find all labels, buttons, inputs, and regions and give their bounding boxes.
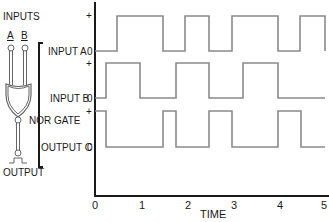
nor-timing-diagram: INPUTS A B NOR GATE OUTPUT INPUT A 0 + I… <box>0 0 329 222</box>
input-b-waveform <box>95 63 325 98</box>
inversion-bubble-icon <box>15 117 21 123</box>
input-a-terminal-icon <box>8 45 14 51</box>
x-tick-1: 1 <box>139 200 145 211</box>
nor-gate-label: NOR GATE <box>29 116 80 126</box>
x-tick-5: 5 <box>321 200 327 211</box>
input-a-letter: A <box>7 31 14 41</box>
output-wire <box>17 123 20 150</box>
input-b-plus-label: + <box>86 59 92 69</box>
x-tick-0: 0 <box>92 200 98 211</box>
x-tick-2: 2 <box>185 200 191 211</box>
output-c-waveform <box>95 111 325 147</box>
input-b-letter: B <box>21 31 28 41</box>
diagram-graphics <box>0 0 329 222</box>
input-a-signal-label: INPUT A <box>48 47 87 57</box>
output-label: OUTPUT <box>3 168 44 178</box>
output-c-zero-label: 0 <box>87 143 93 153</box>
input-wires <box>10 51 27 85</box>
output-terminal-icon <box>15 150 21 156</box>
input-a-zero-label: 0 <box>87 47 93 57</box>
input-a-waveform <box>95 16 325 51</box>
x-tick-4: 4 <box>277 200 283 211</box>
input-b-zero-label: 0 <box>87 94 93 104</box>
output-c-signal-label: OUTPUT C <box>41 143 92 153</box>
pulse-symbol-icon <box>9 158 27 163</box>
input-b-terminal-icon <box>22 45 28 51</box>
x-axis-title: TIME <box>200 209 226 220</box>
output-c-plus-label: + <box>86 107 92 117</box>
input-a-plus-label: + <box>86 11 92 21</box>
x-tick-3: 3 <box>231 200 237 211</box>
input-b-signal-label: INPUT B <box>50 94 89 104</box>
inputs-label: INPUTS <box>3 12 40 22</box>
